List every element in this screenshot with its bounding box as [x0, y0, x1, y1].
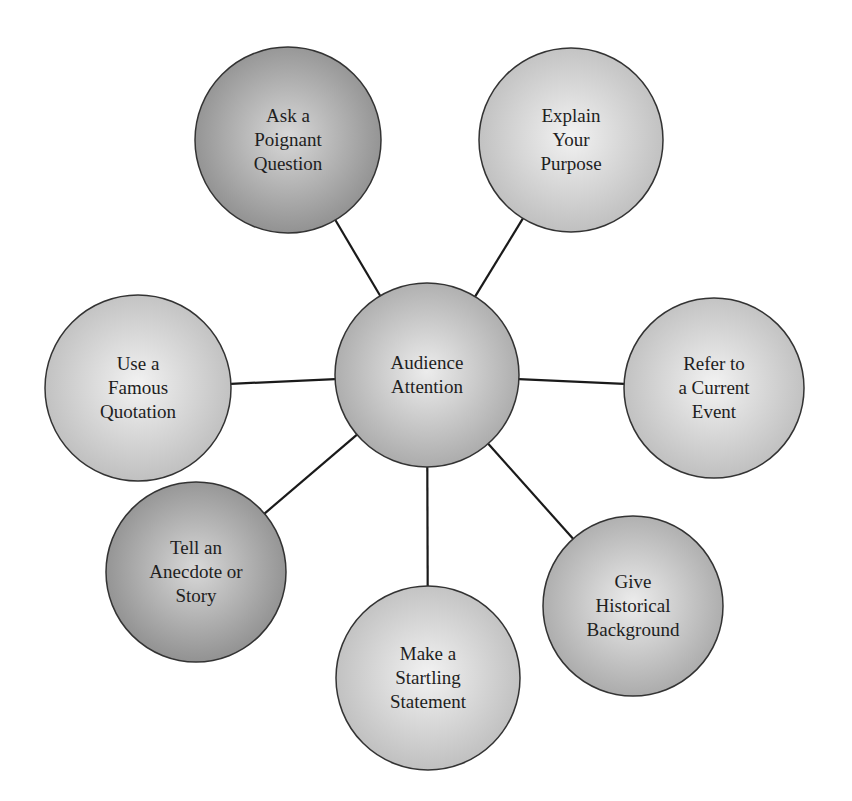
- node-label-line: Question: [254, 153, 323, 174]
- node-label-line: Your: [552, 129, 590, 150]
- node-refer-to-a-current-event: Refer toa CurrentEvent: [624, 298, 804, 478]
- node-explain-your-purpose: ExplainYourPurpose: [479, 48, 663, 232]
- node-label-line: Anecdote or: [149, 561, 243, 582]
- connector-line-explain-your-purpose: [475, 218, 523, 296]
- node-use-a-famous-quotation: Use aFamousQuotation: [45, 295, 231, 481]
- node-label-line: Explain: [541, 105, 601, 126]
- node-label-line: Historical: [596, 595, 671, 616]
- node-label-line: Famous: [108, 377, 168, 398]
- node-label-line: Use a: [117, 353, 160, 374]
- node-ask-a-poignant-question: Ask aPoignantQuestion: [195, 47, 381, 233]
- node-label-line: Purpose: [540, 153, 601, 174]
- node-label-line: Background: [587, 619, 680, 640]
- node-label-line: Make a: [400, 643, 457, 664]
- node-label-line: a Current: [678, 377, 750, 398]
- node-label-line: Statement: [390, 691, 467, 712]
- node-give-historical-background: GiveHistoricalBackground: [543, 516, 723, 696]
- node-label-line: Audience: [391, 352, 464, 373]
- node-label-line: Ask a: [266, 105, 310, 126]
- node-circle: [335, 283, 519, 467]
- connector-line-refer-to-a-current-event: [519, 379, 624, 384]
- connector-line-ask-a-poignant-question: [335, 220, 380, 296]
- node-label-line: Startling: [395, 667, 461, 688]
- node-label-line: Story: [175, 585, 217, 606]
- connector-line-tell-an-anecdote-or-story: [264, 435, 357, 514]
- node-tell-an-anecdote-or-story: Tell anAnecdote orStory: [106, 482, 286, 662]
- node-label-line: Tell an: [170, 537, 222, 558]
- diagram-nodes: Ask aPoignantQuestionExplainYourPurposeU…: [45, 47, 804, 770]
- node-label-line: Quotation: [100, 401, 176, 422]
- node-label-line: Poignant: [254, 129, 322, 150]
- connector-line-use-a-famous-quotation: [231, 379, 335, 384]
- node-label-line: Event: [692, 401, 737, 422]
- node-label-line: Give: [615, 571, 652, 592]
- node-label-line: Refer to: [683, 353, 745, 374]
- node-label-line: Attention: [391, 376, 463, 397]
- hub-and-spoke-diagram: Ask aPoignantQuestionExplainYourPurposeU…: [0, 0, 852, 801]
- connector-line-give-historical-background: [488, 444, 573, 539]
- node-make-a-startling-statement: Make aStartlingStatement: [336, 586, 520, 770]
- center-node-audience-attention: AudienceAttention: [335, 283, 519, 467]
